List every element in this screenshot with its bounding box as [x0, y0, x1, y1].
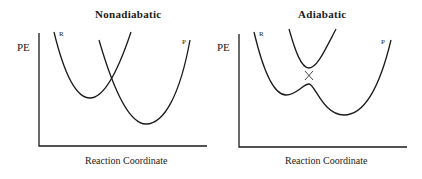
upper-surface — [289, 29, 336, 68]
x-axis-label: Reaction Coordinate — [85, 155, 167, 166]
reactant-curve — [54, 32, 131, 98]
adiabatic-plot — [211, 0, 422, 179]
avoided-crossing-marker — [305, 71, 313, 80]
axes — [239, 34, 407, 147]
lower-surface — [254, 32, 391, 115]
nonadiabatic-panel: Nonadiabatic PE R P Reaction Coordinate — [0, 0, 211, 179]
x-axis-label: Reaction Coordinate — [285, 155, 367, 166]
adiabatic-panel: Adiabatic PE R P Reaction Coordinate — [211, 0, 422, 179]
product-curve — [99, 40, 190, 124]
nonadiabatic-plot — [0, 0, 211, 179]
axes — [39, 33, 207, 146]
